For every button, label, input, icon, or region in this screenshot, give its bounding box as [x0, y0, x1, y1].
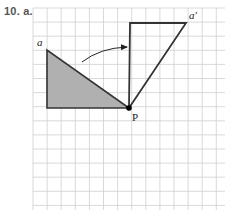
- rotation-arrow-icon: [82, 47, 127, 62]
- label-P: P: [132, 111, 138, 123]
- center-point-P: [126, 105, 132, 111]
- label-a: a: [37, 36, 43, 48]
- rotation-diagram: a a′ P: [0, 0, 225, 210]
- rotated-triangle: [129, 23, 186, 108]
- original-triangle: [47, 50, 129, 108]
- label-a-prime: a′: [189, 9, 198, 21]
